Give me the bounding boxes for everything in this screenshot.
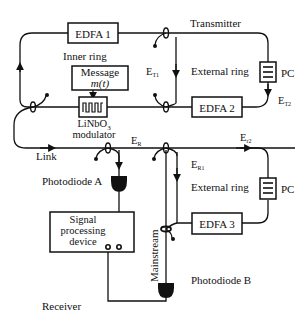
coupler-link-b [152, 143, 177, 161]
spd-label-1: Signal [70, 214, 97, 225]
signal-et1-label: ET1 [146, 66, 159, 78]
edfa3-box: EDFA 3 [192, 213, 242, 234]
coupler-link-a [94, 143, 119, 161]
external-ring-bottom-label: External ring [191, 181, 249, 193]
signal-et2-label: ET2 [278, 95, 291, 107]
edfa2-box: EDFA 2 [192, 97, 242, 117]
receiver-label: Receiver [42, 300, 81, 312]
inner-ring-loop [14, 33, 295, 148]
edfa2-label: EDFA 2 [199, 102, 235, 114]
edfa1-box: EDFA 1 [68, 23, 118, 43]
signal-processing-device-box: Signal processing device [50, 212, 134, 252]
polarization-controller-bottom: PC [260, 178, 294, 199]
modulator-box [79, 97, 107, 117]
signal-er-label: ER [131, 135, 141, 147]
modulator-label-2: modulator [72, 129, 116, 140]
signal-er1-label: ER1 [191, 159, 204, 171]
spd-label-2: processing [61, 225, 107, 236]
optical-system-diagram: EDFA 1 Message m(t) LiNbO3 modulator EDF… [0, 0, 307, 323]
spd-input-port-b [106, 245, 110, 249]
polarization-controller-top: PC [260, 62, 294, 82]
photodiode-a: Photodiode A [42, 175, 127, 192]
edfa3-label: EDFA 3 [199, 218, 235, 230]
spd-label-3: device [69, 236, 97, 247]
mainstream-label: Mainstream [148, 229, 160, 282]
inner-ring-label: Inner ring [63, 50, 107, 62]
photodiode-b: Photodiode B [158, 274, 251, 298]
external-ring-top-label: External ring [191, 65, 249, 77]
coupler-mid-right [153, 93, 176, 112]
coupler-mainstream [161, 223, 177, 241]
pc-bottom-label: PC [281, 183, 294, 195]
message-box: Message m(t) [72, 66, 128, 90]
photodiode-b-label: Photodiode B [191, 274, 251, 286]
coupler-top-right [153, 28, 169, 48]
coupler-left [31, 93, 50, 112]
pc-top-label: PC [281, 67, 294, 79]
photodiode-a-label: Photodiode A [42, 175, 102, 187]
link-label: Link [36, 150, 57, 162]
spd-input-port-a [117, 245, 121, 249]
edfa1-label: EDFA 1 [75, 28, 111, 40]
transmitter-label: Transmitter [190, 17, 241, 29]
message-signal-label: m(t) [91, 77, 110, 90]
signal-er2-label: Er2 [240, 132, 251, 144]
